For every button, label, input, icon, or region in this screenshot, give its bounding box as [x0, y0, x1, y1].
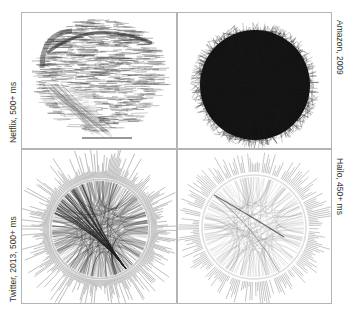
- hailo-chord-diagram: [178, 150, 332, 304]
- panel-amazon: [177, 12, 332, 149]
- panel-hailo: [177, 149, 332, 304]
- twitter-chord-diagram: [22, 150, 177, 304]
- amazon-dependency-graph: [178, 13, 332, 149]
- caption-netflix: Netflix, 500+ ms: [8, 82, 18, 143]
- caption-amazon: Amazon, 2009: [335, 20, 345, 75]
- netflix-dependency-graph: [22, 13, 177, 149]
- panel-twitter: [21, 149, 177, 304]
- caption-hailo: Hailo, 450+ ms: [335, 158, 345, 215]
- caption-twitter: Twitter, 2013, 500+ ms: [8, 216, 18, 302]
- panel-netflix: [21, 12, 177, 149]
